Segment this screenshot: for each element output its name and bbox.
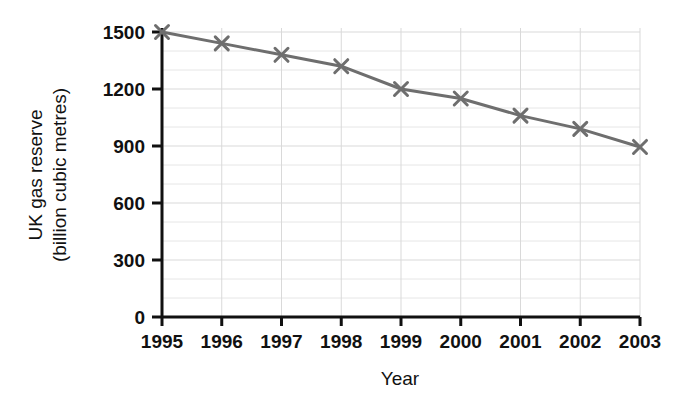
x-axis-tick-label: 2001 — [499, 331, 542, 352]
y-axis-title-line-1: UK gas reserve — [25, 110, 46, 241]
y-axis-tick-label: 900 — [113, 136, 145, 157]
y-axis-tick-labels: 030060090012001500 — [103, 22, 145, 328]
x-axis-title: Year — [381, 368, 420, 389]
x-axis-tick-label: 2003 — [619, 331, 661, 352]
y-axis-tick-label: 1500 — [103, 22, 145, 43]
x-axis-tick-label: 1998 — [320, 331, 362, 352]
x-axis-tick-labels: 199519961997199819992000200120022003 — [141, 331, 661, 352]
line-chart: 030060090012001500 199519961997199819992… — [0, 0, 696, 400]
y-axis-title-line-2: (billion cubic metres) — [49, 88, 70, 262]
vertical-gridlines — [222, 28, 640, 317]
y-axis-tick-label: 300 — [113, 250, 145, 271]
y-axis-tick-label: 1200 — [103, 79, 145, 100]
x-axis-tick-label: 1995 — [141, 331, 184, 352]
x-axis-tick-label: 1997 — [260, 331, 302, 352]
x-axis-tick-label: 2000 — [440, 331, 482, 352]
x-axis-tick-label: 1996 — [201, 331, 243, 352]
x-axis-tick-label: 2002 — [559, 331, 601, 352]
y-axis-tick-label: 600 — [113, 193, 145, 214]
chart-canvas: 030060090012001500 199519961997199819992… — [0, 0, 696, 400]
y-axis-tick-label: 0 — [134, 307, 145, 328]
x-axis-tick-label: 1999 — [380, 331, 422, 352]
